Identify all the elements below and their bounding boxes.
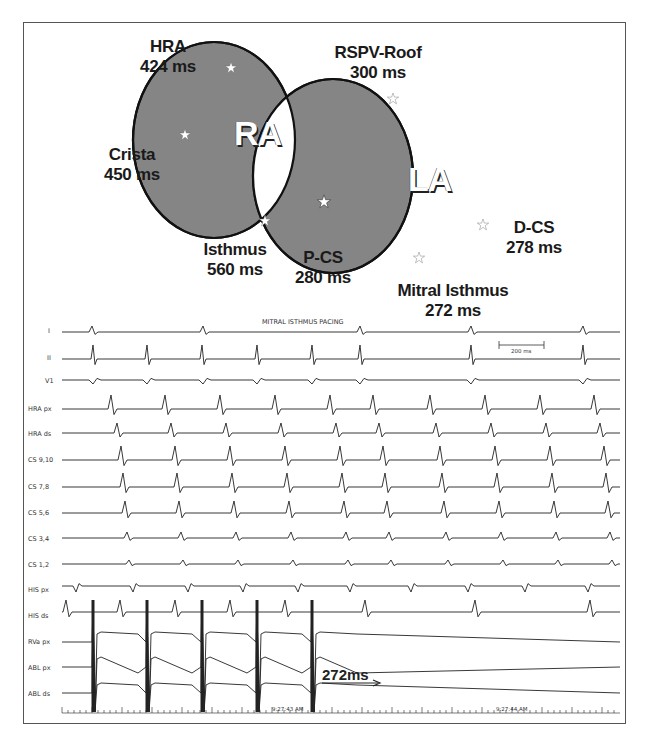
- egm-traces: [0, 0, 651, 737]
- figure: RA LA HRA 424 ms Crista 450 ms Isthmus 5…: [0, 0, 651, 737]
- timestamp-2: 9:27:44 AM: [496, 706, 527, 712]
- timestamp-1: 9:27:43 AM: [272, 706, 303, 712]
- conduction-annotation: 272ms: [322, 666, 369, 683]
